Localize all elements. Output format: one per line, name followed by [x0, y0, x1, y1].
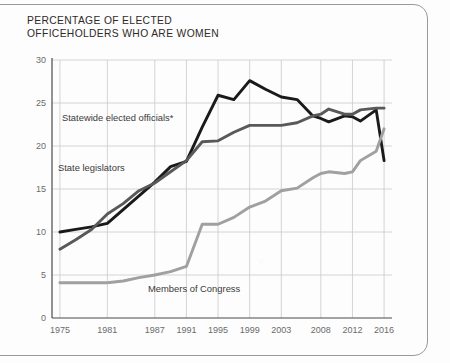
x-tick-label: 2008: [311, 325, 331, 335]
chart-plot-area: 051015202530 197519811987199119951999200…: [0, 0, 450, 363]
line-chart: 051015202530 197519811987199119951999200…: [0, 0, 450, 363]
y-tick-label: 0: [41, 313, 46, 323]
x-tick-label: 1999: [240, 325, 260, 335]
x-tick-label: 1987: [145, 325, 165, 335]
x-tick-label: 1991: [176, 325, 196, 335]
data-series-lines: [60, 81, 384, 283]
x-axis-tick-labels: 1975198119871991199519992003200820122016: [50, 325, 394, 335]
x-tick-label: 1981: [97, 325, 117, 335]
x-tick-label: 2012: [342, 325, 362, 335]
x-tick-label: 1975: [50, 325, 70, 335]
y-tick-label: 30: [36, 55, 46, 65]
y-tick-label: 5: [41, 270, 46, 280]
series-line: [60, 108, 384, 249]
y-tick-label: 20: [36, 141, 46, 151]
grid-lines: [52, 60, 392, 318]
y-tick-label: 10: [36, 227, 46, 237]
y-tick-label: 15: [36, 184, 46, 194]
x-tick-label: 2003: [271, 325, 291, 335]
chart-card: PERCENTAGE OF ELECTED OFFICEHOLDERS WHO …: [0, 0, 450, 363]
y-axis-tick-labels: 051015202530: [36, 55, 46, 323]
y-tick-label: 25: [36, 98, 46, 108]
series-line: [60, 129, 384, 283]
x-tick-label: 2016: [374, 325, 394, 335]
x-tick-label: 1995: [208, 325, 228, 335]
